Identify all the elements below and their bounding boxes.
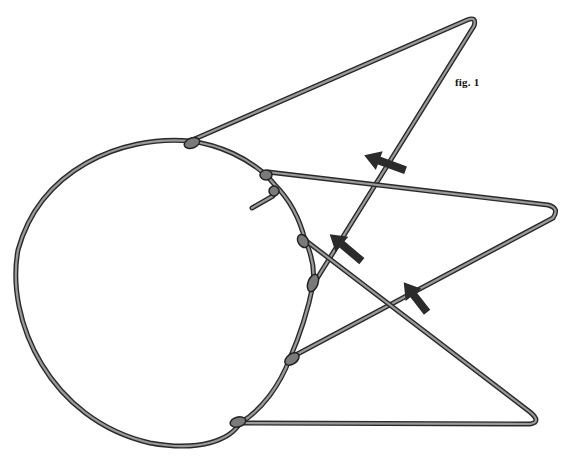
joint-stub xyxy=(269,186,279,196)
wire-stub xyxy=(252,196,273,208)
figure-caption: fig. 1 xyxy=(455,76,479,88)
joint-lower xyxy=(305,273,321,293)
bottom-wire-loop xyxy=(240,240,536,424)
arrow-upper-icon xyxy=(361,146,409,180)
joint-upper xyxy=(260,170,272,180)
joint-bottom xyxy=(229,415,247,429)
circle-hoop xyxy=(16,140,314,446)
joints xyxy=(183,136,321,429)
wire-frame-diagram xyxy=(0,0,575,463)
